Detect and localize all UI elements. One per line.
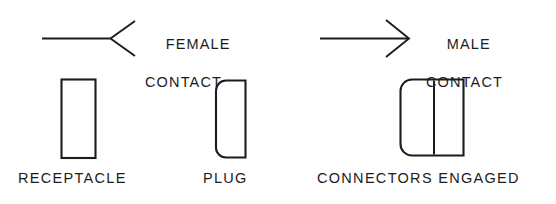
male-contact-callout: MALE CONTACT bbox=[426, 16, 503, 131]
receptacle-label: RECEPTACLE bbox=[18, 169, 127, 188]
plug-label: PLUG bbox=[203, 169, 248, 188]
male-contact-callout-line-1: MALE bbox=[447, 36, 491, 52]
female-contact-symbol bbox=[42, 21, 135, 56]
receptacle-shape bbox=[62, 80, 96, 159]
male-contact-callout-line-2: CONTACT bbox=[426, 73, 503, 92]
female-contact-socket-icon bbox=[111, 21, 136, 56]
female-contact-callout: FEMALE CONTACT bbox=[145, 16, 231, 131]
receptacle-outline bbox=[62, 80, 96, 159]
female-contact-callout-line-1: FEMALE bbox=[166, 36, 231, 52]
connectors-engaged-label: CONNECTORS ENGAGED bbox=[317, 169, 520, 188]
connector-symbols-diagram: FEMALE CONTACT MALE CONTACT RECEPTACLE P… bbox=[0, 0, 556, 204]
female-contact-callout-line-2: CONTACT bbox=[145, 73, 231, 92]
male-contact-symbol bbox=[320, 20, 409, 57]
